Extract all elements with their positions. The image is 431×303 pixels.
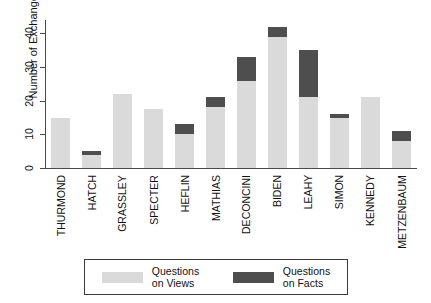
- bar-deconcini: [237, 57, 256, 168]
- bar-kennedy: [361, 97, 380, 168]
- y-tick-label-text: 10: [21, 126, 37, 142]
- bar-segment-facts: [82, 151, 101, 154]
- bar-segment-views: [206, 107, 225, 168]
- y-tick-label-20: 20: [11, 93, 37, 109]
- y-tick-label-30: 30: [11, 59, 37, 75]
- dark-gray-swatch: [233, 272, 274, 283]
- legend-item-views: Questions on Views: [102, 265, 199, 289]
- bar-segment-facts: [237, 57, 256, 81]
- bar-segment-views: [299, 97, 318, 168]
- x-axis-line: [45, 168, 417, 169]
- x-axis-tick-labels: THURMONDHATCHGRASSLEYSPECTERHEFLINMATHIA…: [45, 171, 417, 253]
- bar-simon: [330, 114, 349, 168]
- bar-biden: [268, 27, 287, 168]
- light-gray-swatch: [102, 272, 143, 283]
- bar-segment-facts: [268, 27, 287, 37]
- y-tick-label-text: 40: [21, 25, 37, 41]
- bar-segment-views: [175, 134, 194, 168]
- y-tick-label-text: 20: [21, 93, 37, 109]
- plot-area: 010203040: [45, 20, 417, 168]
- bar-segment-views: [113, 94, 132, 168]
- legend-label-views-line1: Questions: [152, 265, 199, 277]
- legend-label-views-line2: on Views: [152, 277, 199, 289]
- y-tick-label-text: 30: [21, 59, 37, 75]
- bar-heflin: [175, 124, 194, 168]
- bar-segment-views: [237, 81, 256, 168]
- bar-segment-facts: [330, 114, 349, 117]
- bar-mathias: [206, 97, 225, 168]
- bar-thurmond: [51, 118, 70, 168]
- y-tick-0: [40, 168, 45, 169]
- bar-hatch: [82, 151, 101, 168]
- y-tick-label-10: 10: [11, 126, 37, 142]
- bar-segment-facts: [299, 50, 318, 97]
- legend-label-facts-line1: Questions: [283, 265, 330, 277]
- bar-segment-views: [330, 118, 349, 168]
- bar-grassley: [113, 94, 132, 168]
- x-tick-label-text: METZENBAUM: [396, 175, 408, 249]
- bar-segment-views: [51, 118, 70, 168]
- legend-label-views: Questions on Views: [152, 265, 199, 289]
- bar-segment-facts: [175, 124, 194, 134]
- bar-segment-views: [144, 109, 163, 168]
- y-tick-label-40: 40: [11, 25, 37, 41]
- legend-label-facts-line2: on Facts: [283, 277, 330, 289]
- bar-leahy: [299, 50, 318, 168]
- bar-segment-views: [361, 97, 380, 168]
- bar-metzenbaum: [392, 131, 411, 168]
- bar-specter: [144, 109, 163, 168]
- bar-segment-views: [392, 141, 411, 168]
- bar-segment-views: [82, 155, 101, 168]
- legend-label-facts: Questions on Facts: [283, 265, 330, 289]
- bar-chart: Number of Exchanges 010203040 THURMONDHA…: [0, 0, 431, 303]
- bar-segment-facts: [206, 97, 225, 107]
- bar-segment-views: [268, 37, 287, 168]
- legend-item-facts: Questions on Facts: [233, 265, 330, 289]
- chart-legend: Questions on Views Questions on Facts: [84, 259, 348, 295]
- x-tick-label-metzenbaum: METZENBAUM: [362, 171, 431, 253]
- bar-segment-facts: [392, 131, 411, 141]
- bar-series-group: [45, 20, 417, 168]
